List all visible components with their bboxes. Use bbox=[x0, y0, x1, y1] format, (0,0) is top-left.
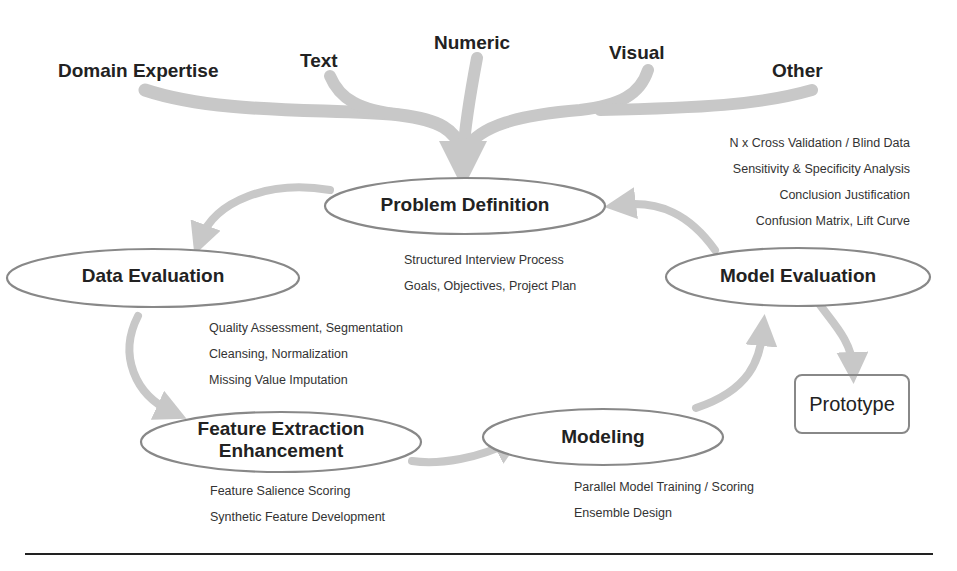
note-line: Quality Assessment, Segmentation bbox=[209, 315, 403, 341]
note-line: Parallel Model Training / Scoring bbox=[574, 474, 754, 500]
notes-problem-definition: Structured Interview Process Goals, Obje… bbox=[404, 247, 576, 299]
note-line: N x Cross Validation / Blind Data bbox=[668, 130, 910, 156]
node-problem-definition: Problem Definition bbox=[325, 194, 605, 216]
notes-data-evaluation: Quality Assessment, Segmentation Cleansi… bbox=[209, 315, 403, 393]
node-model-evaluation: Model Evaluation bbox=[666, 265, 930, 287]
note-line: Confusion Matrix, Lift Curve bbox=[668, 208, 910, 234]
note-line: Feature Salience Scoring bbox=[210, 478, 385, 504]
source-text: Text bbox=[300, 50, 338, 72]
note-line: Synthetic Feature Development bbox=[210, 504, 385, 530]
source-numeric: Numeric bbox=[434, 32, 510, 54]
note-line: Structured Interview Process bbox=[404, 247, 576, 273]
notes-feature-extraction: Feature Salience Scoring Synthetic Featu… bbox=[210, 478, 385, 530]
notes-model-evaluation: N x Cross Validation / Blind Data Sensit… bbox=[668, 130, 910, 234]
bottom-rule bbox=[25, 553, 933, 555]
note-line: Sensitivity & Specificity Analysis bbox=[668, 156, 910, 182]
node-feature-extraction-line2: Enhancement bbox=[141, 440, 421, 462]
notes-modeling: Parallel Model Training / Scoring Ensemb… bbox=[574, 474, 754, 526]
source-visual: Visual bbox=[609, 42, 665, 64]
node-feature-extraction: Feature Extraction Enhancement bbox=[141, 418, 421, 462]
note-line: Conclusion Justification bbox=[668, 182, 910, 208]
note-line: Goals, Objectives, Project Plan bbox=[404, 273, 576, 299]
note-line: Ensemble Design bbox=[574, 500, 754, 526]
source-other: Other bbox=[772, 60, 823, 82]
node-prototype: Prototype bbox=[794, 374, 910, 434]
node-feature-extraction-line1: Feature Extraction bbox=[141, 418, 421, 440]
node-modeling: Modeling bbox=[483, 426, 723, 448]
note-line: Cleansing, Normalization bbox=[209, 341, 403, 367]
note-line: Missing Value Imputation bbox=[209, 367, 403, 393]
node-data-evaluation: Data Evaluation bbox=[7, 265, 299, 287]
source-domain-expertise: Domain Expertise bbox=[58, 60, 219, 82]
